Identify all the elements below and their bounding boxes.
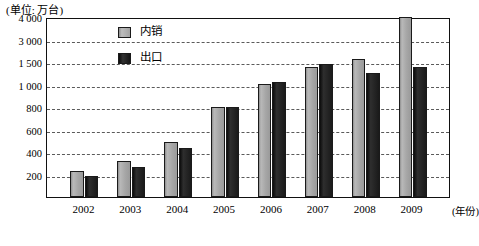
legend-label-domestic: 内销 [140, 26, 162, 38]
bar-domestic-2007 [305, 67, 319, 198]
bar-export-2003 [132, 167, 146, 197]
y-axis-tick: 1 500 [0, 58, 42, 69]
y-axis-tick: 400 [0, 148, 42, 159]
bar-domestic-2002 [70, 171, 84, 197]
y-axis-tick: 600 [0, 125, 42, 136]
bar-export-2004 [179, 148, 193, 198]
y-axis-tick: 800 [0, 103, 42, 114]
bar-domestic-2003 [117, 161, 131, 197]
bars-layer [47, 19, 449, 197]
legend-swatch-domestic-icon [118, 27, 131, 38]
legend-item-export: 出口 [118, 52, 162, 64]
x-axis-title: (年份) [452, 203, 479, 218]
bar-domestic-2004 [164, 142, 178, 197]
bar-export-2009 [413, 67, 427, 198]
bar-domestic-2006 [258, 84, 272, 197]
bar-export-2007 [319, 64, 333, 197]
bar-export-2005 [226, 107, 240, 197]
bar-export-2008 [366, 73, 380, 197]
x-axis-tick: 2008 [354, 203, 376, 215]
legend-label-export: 出口 [140, 52, 162, 64]
plot-area [46, 18, 450, 198]
y-axis-tick: 200 [0, 170, 42, 181]
x-axis-tick: 2002 [72, 203, 94, 215]
y-axis-tick: 4 000 [0, 13, 42, 24]
x-axis-tick: 2007 [307, 203, 329, 215]
x-axis-tick: 2004 [166, 203, 188, 215]
y-axis-tick: 1 000 [0, 80, 42, 91]
bar-domestic-2008 [352, 59, 366, 197]
x-axis-tick: 2005 [213, 203, 235, 215]
y-axis-tick: 3 000 [0, 35, 42, 46]
x-axis-tick: 2006 [260, 203, 282, 215]
x-axis-tick: 2003 [119, 203, 141, 215]
legend: 内销 出口 [118, 26, 162, 78]
legend-swatch-export-icon [118, 53, 131, 64]
x-axis-tick: 2009 [401, 203, 423, 215]
bar-domestic-2005 [211, 107, 225, 197]
bar-domestic-2009 [399, 17, 413, 197]
bar-export-2006 [272, 82, 286, 197]
legend-item-domestic: 内销 [118, 26, 162, 38]
bar-export-2002 [85, 176, 99, 197]
